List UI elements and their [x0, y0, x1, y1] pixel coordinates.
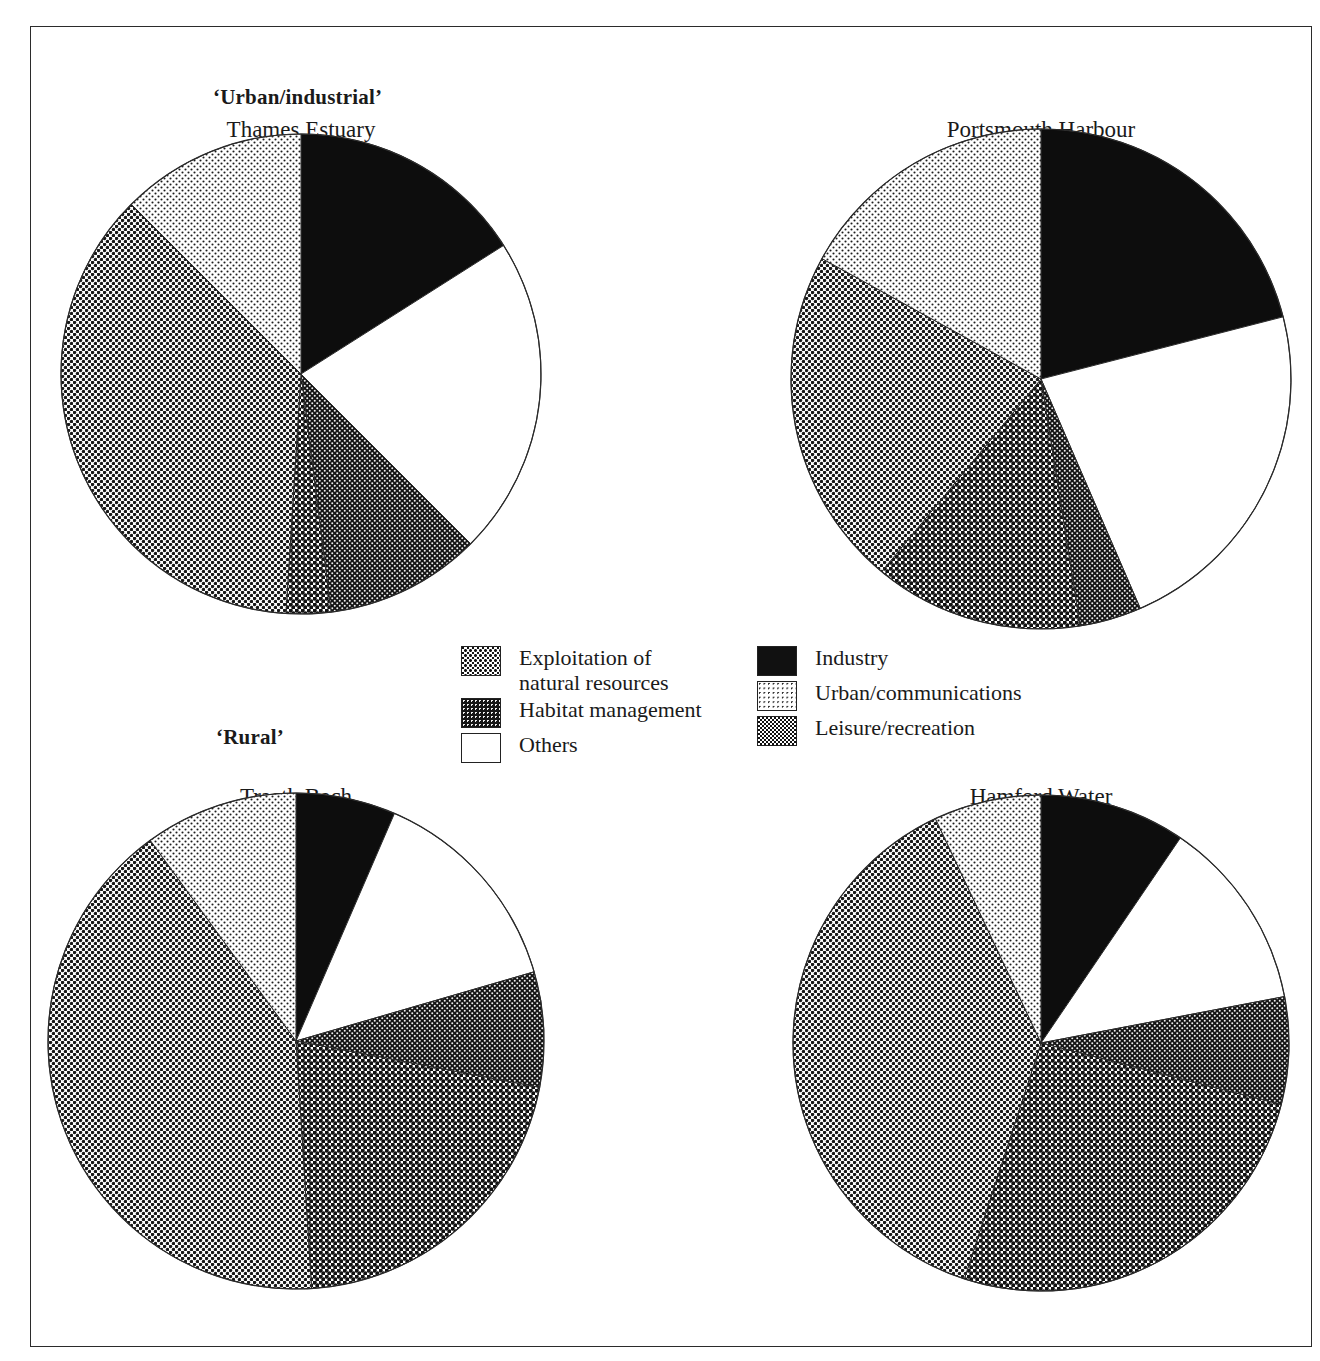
legend-swatch-others-icon: [461, 733, 501, 763]
legend-label-others: Others: [519, 732, 578, 757]
legend: Exploitation of natural resourcesHabitat…: [461, 645, 1101, 785]
legend-swatch-exploitation-icon: [461, 646, 501, 676]
legend-swatch-industry-icon: [757, 646, 797, 676]
legend-swatch-leisure-icon: [757, 716, 797, 746]
legend-item-exploitation: Exploitation of natural resources: [461, 645, 761, 695]
legend-swatch-habitat-icon: [461, 698, 501, 728]
legend-swatch-urban-icon: [757, 681, 797, 711]
figure-border: ‘Urban/industrial’ ‘Rural’ Thames Estuar…: [30, 26, 1312, 1347]
pie-hamford-water: [793, 795, 1289, 1291]
pie-traeth-bach: [48, 793, 544, 1289]
legend-item-industry: Industry: [757, 645, 1101, 676]
legend-label-urban: Urban/communications: [815, 680, 1022, 705]
legend-item-others: Others: [461, 732, 761, 763]
legend-label-habitat: Habitat management: [519, 697, 702, 722]
legend-column-left: Exploitation of natural resourcesHabitat…: [461, 645, 761, 767]
legend-column-right: IndustryUrban/communicationsLeisure/recr…: [757, 645, 1101, 750]
legend-label-industry: Industry: [815, 645, 888, 670]
legend-item-habitat: Habitat management: [461, 697, 761, 728]
legend-label-leisure: Leisure/recreation: [815, 715, 975, 740]
legend-label-exploitation: Exploitation of natural resources: [519, 645, 669, 695]
legend-item-leisure: Leisure/recreation: [757, 715, 1101, 746]
pie-thames-estuary: [61, 134, 541, 614]
legend-item-urban: Urban/communications: [757, 680, 1101, 711]
pie-portsmouth-harbour: [791, 129, 1291, 629]
